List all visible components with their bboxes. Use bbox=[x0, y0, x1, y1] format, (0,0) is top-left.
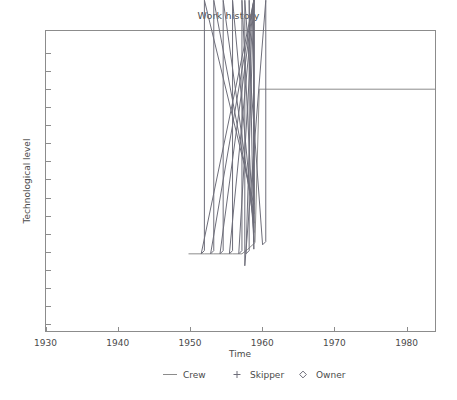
x-axis-ticks bbox=[47, 327, 408, 332]
x-axis-tick-labels: 193019401950196019701980 bbox=[34, 338, 418, 348]
x-tick-label-1980: 1980 bbox=[395, 338, 418, 348]
legend-item-crew[interactable]: Crew bbox=[163, 370, 206, 380]
series-line-crew bbox=[189, 89, 436, 254]
series-lines bbox=[189, 89, 436, 254]
chart-container: Work history 193019401950196019701980 Ti… bbox=[0, 0, 457, 400]
legend-label-skipper: Skipper bbox=[250, 370, 284, 380]
y-axis-title: Technological level bbox=[22, 139, 32, 225]
x-tick-label-1940: 1940 bbox=[106, 338, 129, 348]
x-tick-label-1950: 1950 bbox=[178, 338, 201, 348]
x-axis-title: Time bbox=[228, 349, 251, 359]
x-tick-label-1930: 1930 bbox=[34, 338, 57, 348]
series-markers bbox=[201, 0, 266, 266]
legend-item-owner[interactable]: Owner bbox=[300, 370, 346, 380]
chart-legend: CrewSkipperOwner bbox=[163, 370, 346, 380]
legend-label-crew: Crew bbox=[183, 370, 206, 380]
x-tick-label-1970: 1970 bbox=[323, 338, 346, 348]
legend-item-skipper[interactable]: Skipper bbox=[234, 370, 285, 380]
legend-label-owner: Owner bbox=[316, 370, 346, 380]
x-tick-label-1960: 1960 bbox=[251, 338, 274, 348]
work-history-chart: Work history 193019401950196019701980 Ti… bbox=[0, 0, 457, 400]
legend-diamond-icon bbox=[300, 371, 307, 378]
y-axis-ticks bbox=[46, 54, 51, 325]
